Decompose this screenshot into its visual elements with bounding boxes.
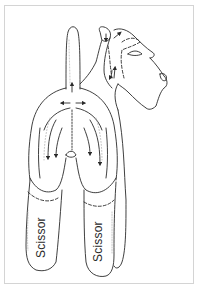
left-dashed-line (28, 192, 58, 201)
tail (66, 27, 80, 89)
cheek-arrow (114, 68, 115, 78)
scissor-label-right: Scissor (91, 221, 105, 262)
body-outline (29, 88, 118, 180)
center-detail (66, 151, 76, 157)
right-dashed-line (84, 200, 114, 206)
head (80, 27, 167, 110)
head-arrow-1 (114, 33, 120, 38)
scissor-label-left: Scissor (34, 217, 48, 258)
right-hip-curve (76, 158, 116, 193)
left-hip-curve (30, 158, 66, 192)
